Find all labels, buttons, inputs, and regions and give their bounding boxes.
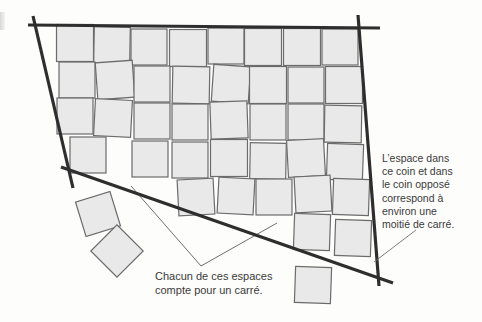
unit-square bbox=[95, 60, 134, 99]
unit-square bbox=[287, 139, 326, 178]
unit-square bbox=[172, 104, 208, 140]
unit-square bbox=[250, 143, 287, 180]
pointer-to-corner bbox=[374, 230, 416, 262]
gap-counts-as-square-caption: Chacun de ces espaces compte pour un car… bbox=[155, 270, 355, 297]
unit-square bbox=[134, 66, 170, 102]
unit-square bbox=[284, 29, 321, 66]
unit-square bbox=[57, 25, 94, 62]
unit-square bbox=[324, 105, 362, 143]
unit-square bbox=[294, 175, 332, 213]
unit-square bbox=[288, 104, 324, 140]
unit-square bbox=[211, 64, 250, 103]
unit-square bbox=[59, 62, 95, 98]
corner-half-square-caption: L’espace dans ce coin et dans le coin op… bbox=[382, 152, 482, 231]
unit-square bbox=[326, 143, 363, 180]
unit-square bbox=[245, 29, 282, 66]
unit-squares bbox=[57, 25, 372, 304]
unit-square bbox=[134, 103, 170, 139]
unit-square bbox=[170, 30, 207, 67]
caption-pointers bbox=[374, 230, 416, 262]
unit-square bbox=[172, 142, 208, 178]
unit-square bbox=[256, 179, 292, 215]
unit-square bbox=[334, 219, 371, 256]
unit-square bbox=[94, 99, 133, 138]
unit-square bbox=[70, 137, 106, 173]
unit-square bbox=[322, 29, 358, 65]
unit-square bbox=[211, 140, 248, 177]
unit-square bbox=[208, 28, 244, 64]
unit-square bbox=[293, 213, 330, 250]
unit-square bbox=[217, 177, 255, 215]
unit-square bbox=[326, 67, 363, 104]
unit-square bbox=[210, 101, 248, 139]
unit-square bbox=[132, 141, 168, 177]
unit-square bbox=[94, 27, 131, 64]
unit-square bbox=[332, 178, 369, 215]
unit-square bbox=[250, 104, 286, 140]
unit-square bbox=[250, 67, 287, 104]
unit-square bbox=[131, 29, 167, 65]
unit-square bbox=[172, 66, 210, 104]
unit-square bbox=[57, 98, 93, 134]
unit-square bbox=[288, 67, 324, 103]
